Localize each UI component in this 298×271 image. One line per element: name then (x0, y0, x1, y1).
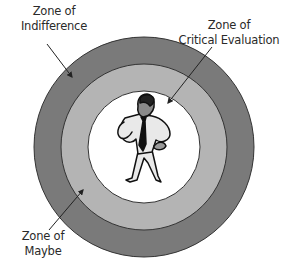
arrow-indifference (47, 44, 72, 77)
label-line-1: Zone of (2, 4, 106, 19)
label-zone-of-indifference: Zone of Indifference (2, 4, 106, 34)
label-zone-of-critical-evaluation: Zone of Critical Evaluation (160, 18, 298, 48)
label-line-2: Maybe (8, 244, 78, 259)
label-line-2: Critical Evaluation (160, 33, 298, 48)
label-line-1: Zone of (8, 229, 78, 244)
label-line-1: Zone of (160, 18, 298, 33)
label-line-2: Indifference (2, 19, 106, 34)
label-zone-of-maybe: Zone of Maybe (8, 229, 78, 259)
